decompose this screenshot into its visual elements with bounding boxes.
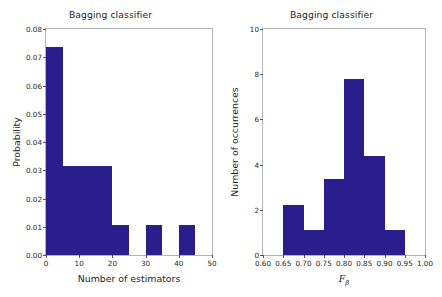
y-tick-label: 0.08	[26, 25, 42, 34]
y-tick-label: 6	[254, 115, 259, 124]
x-tick-label: 50	[207, 259, 216, 268]
x-tick-mark	[304, 255, 305, 258]
x-tick-mark	[425, 255, 426, 258]
x-tick-label: 1.00	[417, 259, 433, 268]
y-tick-mark	[43, 199, 46, 200]
x-axis-title: Number of estimators	[46, 273, 212, 284]
histogram-bar	[46, 47, 63, 255]
y-tick-label: 0.06	[26, 81, 42, 90]
x-tick-mark	[263, 255, 264, 258]
x-tick-mark	[212, 255, 213, 258]
x-tick-label: 0	[44, 259, 49, 268]
histogram-bar	[79, 166, 96, 255]
figure-canvas: Bagging classifier 01020304050 0.000.010…	[0, 0, 442, 297]
chart-title: Bagging classifier	[221, 9, 442, 20]
x-tick-mark	[385, 255, 386, 258]
plot-axes-estimators: 01020304050 0.000.010.020.030.040.050.06…	[45, 28, 213, 256]
y-tick-mark	[260, 29, 263, 30]
y-tick-mark	[43, 142, 46, 143]
x-tick-label: 0.65	[275, 259, 291, 268]
y-tick-label: 0.05	[26, 109, 42, 118]
y-tick-label: 0	[254, 251, 259, 260]
y-tick-mark	[260, 255, 263, 256]
x-tick-mark	[146, 255, 147, 258]
chart-title: Bagging classifier	[0, 9, 221, 20]
chart-panel-fbeta: Bagging classifier 0.600.650.700.750.800…	[221, 0, 442, 297]
histogram-bar	[146, 225, 163, 255]
plot-area	[263, 29, 425, 255]
y-tick-mark	[260, 119, 263, 120]
y-tick-mark	[43, 227, 46, 228]
histogram-bar	[304, 230, 324, 255]
x-tick-mark	[112, 255, 113, 258]
histogram-bar	[179, 225, 196, 255]
y-tick-mark	[43, 57, 46, 58]
x-tick-label: 30	[141, 259, 150, 268]
x-tick-mark	[179, 255, 180, 258]
y-tick-mark	[260, 74, 263, 75]
x-tick-mark	[283, 255, 284, 258]
histogram-bar	[112, 225, 129, 255]
y-tick-mark	[43, 255, 46, 256]
y-tick-mark	[43, 170, 46, 171]
histogram-bar	[324, 179, 344, 255]
y-tick-mark	[43, 29, 46, 30]
y-tick-label: 0.04	[26, 138, 42, 147]
x-tick-label: 10	[75, 259, 84, 268]
y-tick-mark	[260, 210, 263, 211]
y-tick-label: 0.00	[26, 251, 42, 260]
x-tick-label: 0.75	[316, 259, 332, 268]
x-tick-label: 20	[108, 259, 117, 268]
x-tick-mark	[79, 255, 80, 258]
x-tick-label: 0.60	[255, 259, 271, 268]
histogram-bar	[96, 166, 113, 255]
x-tick-mark	[364, 255, 365, 258]
plot-axes-fbeta: 0.600.650.700.750.800.850.900.951.00 024…	[262, 28, 426, 256]
x-tick-label: 0.70	[295, 259, 311, 268]
y-tick-label: 0.07	[26, 53, 42, 62]
x-tick-mark	[324, 255, 325, 258]
x-tick-mark	[46, 255, 47, 258]
histogram-bar	[364, 156, 384, 255]
x-tick-mark	[405, 255, 406, 258]
y-tick-mark	[43, 86, 46, 87]
plot-area	[46, 29, 212, 255]
y-axis-title: Probability	[11, 92, 22, 142]
x-tick-label: 40	[174, 259, 183, 268]
x-tick-label: 0.85	[356, 259, 372, 268]
histogram-bar	[344, 79, 364, 255]
y-tick-label: 4	[254, 160, 259, 169]
y-tick-label: 10	[250, 25, 259, 34]
x-tick-mark	[344, 255, 345, 258]
y-tick-label: 0.02	[26, 194, 42, 203]
y-tick-label: 0.03	[26, 166, 42, 175]
histogram-bar	[283, 205, 303, 255]
chart-panel-estimators: Bagging classifier 01020304050 0.000.010…	[0, 0, 221, 297]
y-tick-mark	[260, 165, 263, 166]
y-axis-title: Number of occurrences	[229, 33, 240, 143]
x-tick-label: 0.80	[336, 259, 352, 268]
y-tick-mark	[43, 114, 46, 115]
y-tick-label: 0.01	[26, 222, 42, 231]
y-tick-label: 2	[254, 205, 259, 214]
histogram-bar	[63, 166, 80, 255]
x-tick-label: 0.95	[397, 259, 413, 268]
x-tick-label: 0.90	[376, 259, 392, 268]
histogram-bar	[385, 230, 405, 255]
x-axis-title-subscript: β	[345, 279, 349, 287]
y-tick-label: 8	[254, 70, 259, 79]
x-axis-title: Fβ	[263, 273, 425, 287]
